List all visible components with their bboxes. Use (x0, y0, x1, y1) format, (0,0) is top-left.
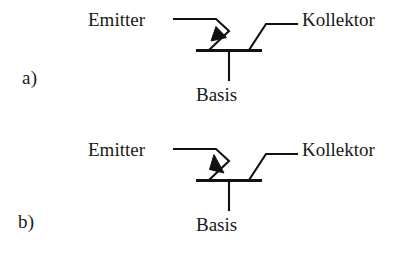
collector-lead-b (249, 154, 297, 180)
emitter-arrowhead-b (210, 155, 225, 174)
figure-a: a) Emitter Kollektor Basis (0, 0, 404, 129)
transistor-symbol-npn (0, 130, 404, 259)
emitter-arrowhead-a (211, 27, 227, 42)
figure-b: b) Emitter Kollektor Basis (0, 130, 404, 259)
collector-lead-a (249, 24, 297, 50)
transistor-symbol-pnp (0, 0, 404, 129)
emitter-lead-b (174, 149, 229, 180)
